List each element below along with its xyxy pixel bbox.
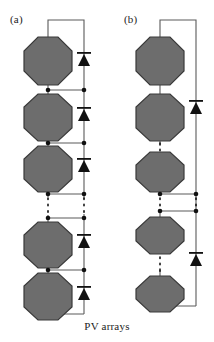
junction-node xyxy=(82,88,87,93)
bypass-diode xyxy=(77,158,91,172)
bypass-diode xyxy=(77,52,91,66)
pv-module xyxy=(24,37,72,85)
junction-node xyxy=(158,209,163,214)
blocking-diode xyxy=(189,252,203,266)
pv-module xyxy=(136,217,184,254)
junction-node xyxy=(82,268,87,273)
pv-module xyxy=(136,94,184,141)
pv-array-figure: (a) (b) xyxy=(0,0,214,342)
junction-node xyxy=(46,141,51,146)
junction-node xyxy=(46,268,51,273)
bypass-diode xyxy=(77,286,91,300)
junction-node xyxy=(46,216,51,221)
junction-node xyxy=(82,141,87,146)
junction-node xyxy=(46,192,51,197)
pv-module xyxy=(136,152,184,192)
panel-b-nodes xyxy=(158,192,199,214)
panel-a-modules xyxy=(24,37,72,320)
pv-module xyxy=(24,222,72,268)
pv-module xyxy=(136,37,184,85)
pv-module xyxy=(24,146,72,192)
panel-label-a: (a) xyxy=(10,13,23,25)
panel-b-group xyxy=(136,20,203,312)
junction-node xyxy=(82,216,87,221)
junction-node xyxy=(194,209,199,214)
figure-caption: PV arrays xyxy=(0,320,214,332)
junction-node xyxy=(46,88,51,93)
panel-a-group xyxy=(24,20,91,320)
bypass-diode xyxy=(77,234,91,248)
pv-array-schematic xyxy=(0,0,214,342)
pv-module xyxy=(136,276,184,312)
pv-module xyxy=(24,273,72,320)
panel-a-ellipsis xyxy=(48,198,84,214)
bypass-diode xyxy=(77,107,91,121)
pv-module xyxy=(24,94,72,141)
panel-label-b: (b) xyxy=(124,13,137,25)
blocking-diode xyxy=(189,100,203,114)
junction-node xyxy=(194,192,199,197)
junction-node xyxy=(158,192,163,197)
junction-node xyxy=(82,192,87,197)
